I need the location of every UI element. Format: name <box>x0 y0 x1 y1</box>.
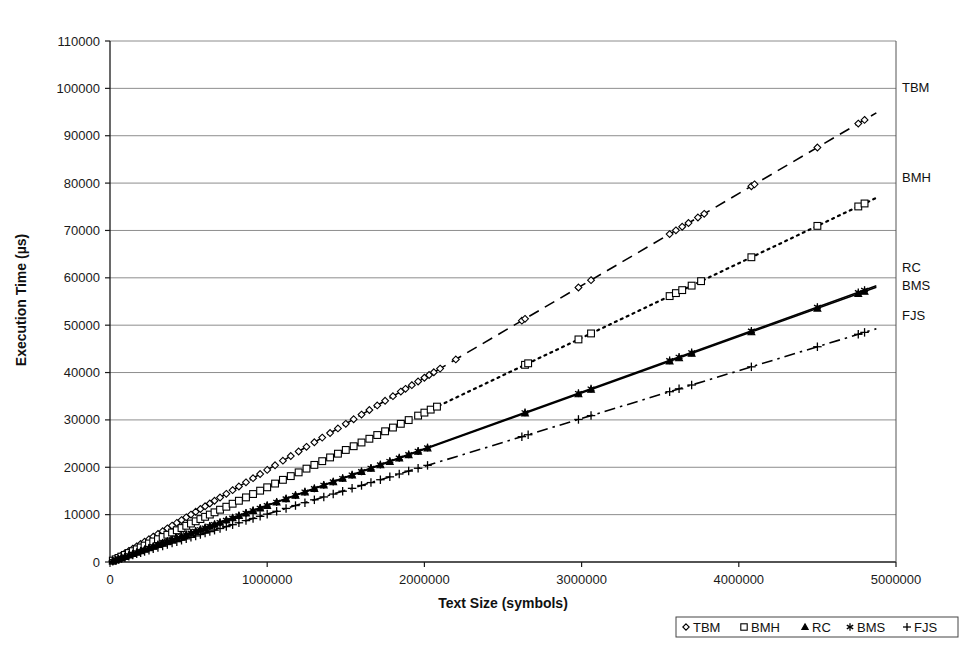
series-right-label-TBM: TBM <box>902 80 929 95</box>
datapoint-BMH <box>350 443 357 450</box>
datapoint-BMH <box>390 424 397 431</box>
datapoint-BMH <box>295 469 302 476</box>
legend-label-RC: RC <box>812 620 831 635</box>
x-tick-label-2000000: 2000000 <box>399 572 450 587</box>
series-right-label-BMH: BMH <box>902 170 931 185</box>
chart-background <box>0 0 960 669</box>
x-tick-label-4000000: 4000000 <box>713 572 764 587</box>
y-tick-label-10000: 10000 <box>64 507 100 522</box>
datapoint-BMH <box>698 278 705 285</box>
x-tick-label-1000000: 1000000 <box>242 572 293 587</box>
chart-figure: 0100002000030000400005000060000700008000… <box>0 0 960 669</box>
datapoint-BMH <box>335 450 342 457</box>
series-right-label-FJS: FJS <box>902 308 925 323</box>
datapoint-BMH <box>374 432 381 439</box>
x-tick-label-5000000: 5000000 <box>871 572 922 587</box>
datapoint-BMH <box>358 439 365 446</box>
x-tick-label-0: 0 <box>106 572 113 587</box>
datapoint-BMH <box>272 480 279 487</box>
legend-label-BMS: BMS <box>857 620 886 635</box>
y-tick-label-30000: 30000 <box>64 412 100 427</box>
datapoint-BMH <box>861 200 868 207</box>
y-tick-label-40000: 40000 <box>64 365 100 380</box>
x-tick-label-3000000: 3000000 <box>556 572 607 587</box>
y-tick-label-100000: 100000 <box>57 81 100 96</box>
y-tick-label-80000: 80000 <box>64 176 100 191</box>
legend-label-FJS: FJS <box>914 620 937 635</box>
y-tick-label-20000: 20000 <box>64 460 100 475</box>
datapoint-BMH <box>264 484 271 491</box>
datapoint-BMH <box>434 403 441 410</box>
datapoint-BMH <box>250 491 257 498</box>
y-tick-label-70000: 70000 <box>64 223 100 238</box>
datapoint-BMH <box>243 494 250 501</box>
datapoint-BMH <box>748 254 755 261</box>
y-tick-label-0: 0 <box>93 555 100 570</box>
legend-label-TBM: TBM <box>693 620 720 635</box>
datapoint-BMH <box>588 330 595 337</box>
y-tick-label-50000: 50000 <box>64 318 100 333</box>
legend-marker-BMH <box>741 624 747 630</box>
datapoint-BMH <box>319 458 326 465</box>
datapoint-BMH <box>311 461 318 468</box>
execution-time-vs-text-size-chart: 0100002000030000400005000060000700008000… <box>0 0 960 669</box>
datapoint-BMH <box>280 476 287 483</box>
datapoint-BMH <box>814 222 821 229</box>
datapoint-BMH <box>688 282 695 289</box>
datapoint-BMH <box>397 420 404 427</box>
y-tick-label-110000: 110000 <box>58 34 100 49</box>
series-right-label-RC: RC <box>902 260 921 275</box>
datapoint-BMH <box>366 435 373 442</box>
y-tick-label-60000: 60000 <box>64 270 100 285</box>
y-tick-label-90000: 90000 <box>64 128 100 143</box>
datapoint-BMH <box>679 287 686 294</box>
datapoint-BMH <box>257 487 264 494</box>
chart-legend: TBMBMHRCBMSFJS <box>676 617 958 637</box>
datapoint-BMH <box>287 473 294 480</box>
datapoint-BMH <box>525 360 532 367</box>
datapoint-BMH <box>303 465 310 472</box>
datapoint-BMH <box>342 447 349 454</box>
datapoint-BMH <box>382 428 389 435</box>
datapoint-BMH <box>236 497 243 504</box>
datapoint-BMH <box>327 454 334 461</box>
x-axis-title: Text Size (symbols) <box>438 595 568 611</box>
legend-label-BMH: BMH <box>751 620 780 635</box>
y-axis-title: Execution Time (µs) <box>13 234 29 366</box>
series-right-label-BMS: BMS <box>902 278 931 293</box>
datapoint-BMH <box>575 336 582 343</box>
datapoint-BMH <box>405 417 412 424</box>
